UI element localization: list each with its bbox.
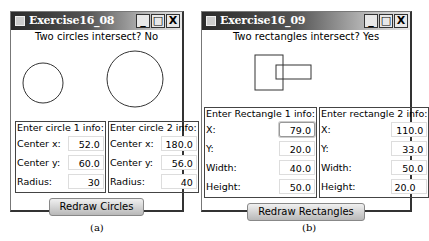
intersect-status: Two rectangles intersect? Yes <box>202 31 410 45</box>
y-input[interactable]: 33.0 <box>391 141 427 156</box>
minimize-button[interactable]: _ <box>364 14 378 28</box>
app-icon <box>206 16 216 26</box>
drawing-canvas <box>11 45 182 121</box>
height-input[interactable]: 20.0 <box>391 179 427 194</box>
circle-1-panel: Enter circle 1 info: Center x:52.0 Cente… <box>15 121 106 193</box>
field-label: X: <box>206 124 216 135</box>
field-label: Height: <box>206 181 241 192</box>
radius-input[interactable]: 40 <box>161 174 197 189</box>
close-button[interactable]: X <box>394 14 408 28</box>
rectangle-1-panel: Enter Rectangle 1 info: X:79.0 Y:20.0 Wi… <box>204 107 317 198</box>
radius-input[interactable]: 30 <box>68 174 104 189</box>
title-bar[interactable]: Exercise16_09 _ □ X <box>202 12 410 30</box>
maximize-button[interactable]: □ <box>379 14 393 28</box>
window-exercise16-08: Exercise16_08 _ □ X Two circles intersec… <box>10 11 184 212</box>
circle-2 <box>107 51 163 107</box>
drawing-canvas <box>202 45 410 107</box>
window-exercise16-09: Exercise16_09 _ □ X Two rectangles inter… <box>201 11 412 212</box>
width-input[interactable]: 50.0 <box>391 160 427 175</box>
caption-b: (b) <box>302 222 316 233</box>
center-x-input[interactable]: 180.0 <box>161 136 197 151</box>
field-label: Radius: <box>110 176 145 187</box>
field-label: Center x: <box>110 138 154 149</box>
circles-drawing <box>11 45 183 121</box>
panel-title: Enter circle 1 info: <box>17 122 104 134</box>
y-input[interactable]: 20.0 <box>279 141 315 156</box>
rectangle-1 <box>255 55 283 90</box>
title-bar[interactable]: Exercise16_08 _ □ X <box>11 12 182 30</box>
rectangles-drawing <box>202 45 411 107</box>
field-label: Radius: <box>17 176 52 187</box>
close-button[interactable]: X <box>166 14 180 28</box>
field-label: Center x: <box>17 138 61 149</box>
field-label: Y: <box>321 143 329 154</box>
panel-title: Enter Rectangle 1 info: <box>206 108 315 120</box>
center-y-input[interactable]: 60.0 <box>68 155 104 170</box>
field-label: Center y: <box>17 157 60 168</box>
field-label: Center y: <box>110 157 153 168</box>
width-input[interactable]: 40.0 <box>279 160 315 175</box>
minimize-button[interactable]: _ <box>136 14 150 28</box>
field-label: Width: <box>206 162 237 173</box>
window-title: Exercise16_09 <box>220 14 305 27</box>
x-input[interactable]: 110.0 <box>391 122 427 137</box>
circle-1 <box>23 63 63 103</box>
redraw-circles-button[interactable]: Redraw Circles <box>49 198 145 216</box>
app-icon <box>15 16 25 26</box>
center-x-input[interactable]: 52.0 <box>68 136 104 151</box>
window-title: Exercise16_08 <box>29 14 114 27</box>
circle-2-panel: Enter circle 2 info: Center x:180.0 Cent… <box>108 121 199 193</box>
rectangle-2 <box>276 65 311 79</box>
panel-title: Enter circle 2 info: <box>110 122 197 134</box>
field-label: X: <box>321 124 331 135</box>
intersect-status: Two circles intersect? No <box>11 31 182 45</box>
redraw-rectangles-button[interactable]: Redraw Rectangles <box>247 203 365 221</box>
field-label: Height: <box>321 181 356 192</box>
x-input[interactable]: 79.0 <box>279 122 315 137</box>
field-label: Y: <box>206 143 214 154</box>
panel-title: Enter rectangle 2 info: <box>321 108 427 120</box>
maximize-button[interactable]: □ <box>151 14 165 28</box>
height-input[interactable]: 50.0 <box>279 179 315 194</box>
rectangle-2-panel: Enter rectangle 2 info: X:110.0 Y:33.0 W… <box>319 107 429 198</box>
center-y-input[interactable]: 56.0 <box>161 155 197 170</box>
field-label: Width: <box>321 162 352 173</box>
caption-a: (a) <box>90 222 104 233</box>
